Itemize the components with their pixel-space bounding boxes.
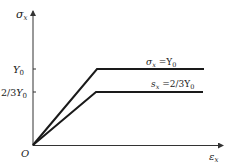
- curve-lower: [33, 92, 203, 145]
- y-axis-label: σx: [16, 8, 28, 22]
- origin-label: O: [21, 148, 29, 159]
- x-axis-label: εx: [209, 151, 218, 164]
- y-tick-label-2-3-Y0: 2/3Y0: [1, 87, 27, 100]
- stress-strain-diagram: σx εx O Y0 2/3Y0 σx =Y0 sx =2/3Y0: [0, 0, 229, 164]
- curve-upper-annotation: σx =Y0: [146, 57, 176, 69]
- y-tick-label-Y0: Y0: [13, 64, 24, 77]
- curve-lower-annotation: sx =2/3Y0: [151, 79, 194, 91]
